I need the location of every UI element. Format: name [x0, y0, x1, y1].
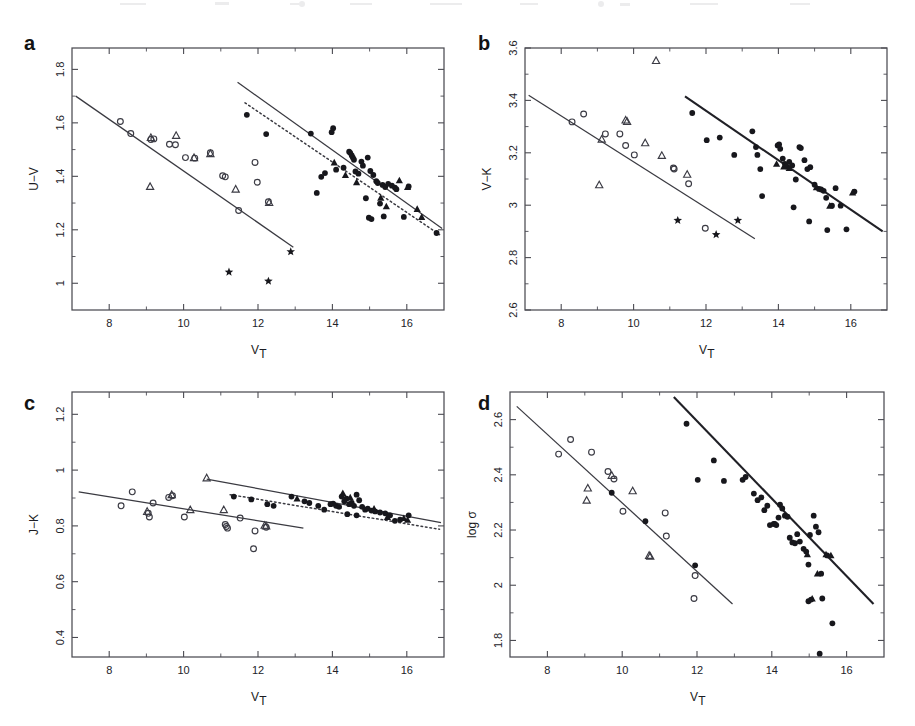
series-nearby-open-triangles — [147, 132, 273, 206]
plot-frame — [525, 48, 887, 310]
fit-line-nearby-fit-solid — [79, 492, 304, 528]
data-point — [353, 179, 360, 186]
data-point — [330, 125, 336, 131]
data-point — [321, 507, 327, 513]
data-point — [757, 166, 763, 172]
y-axis-label: V−K — [480, 167, 494, 190]
y-tick-label: 0.8 — [54, 518, 66, 533]
x-axis-label: VT — [251, 690, 267, 708]
data-point — [695, 477, 701, 483]
data-point — [251, 546, 257, 552]
data-point — [365, 155, 371, 161]
data-point — [833, 185, 839, 191]
y-tick-label: 2 — [492, 582, 504, 588]
data-point — [791, 204, 797, 210]
data-point — [755, 152, 761, 158]
x-axis-label: VT — [699, 343, 715, 361]
data-point — [203, 474, 210, 481]
data-point — [568, 437, 574, 443]
y-tick-label: 2.8 — [507, 250, 519, 265]
fit-line-nearby-fit-solid — [76, 96, 294, 247]
data-point — [605, 469, 611, 475]
data-point — [377, 510, 383, 516]
data-point — [807, 164, 813, 170]
data-point — [817, 651, 823, 657]
data-point — [816, 529, 822, 535]
data-point — [117, 119, 123, 125]
x-tick-label: 8 — [544, 664, 550, 676]
x-axis-label-base: V — [699, 343, 707, 357]
x-axis-label-subscript: T — [259, 347, 267, 361]
y-tick-label: 2.6 — [507, 302, 519, 317]
data-point — [631, 152, 637, 158]
data-point — [181, 514, 187, 520]
data-point — [308, 131, 314, 137]
series-nearby-open-circles — [117, 119, 271, 214]
data-point — [753, 144, 759, 150]
data-point — [780, 156, 786, 162]
data-point — [609, 490, 615, 496]
data-point — [838, 203, 844, 209]
series-nearby-filled-small — [609, 490, 698, 568]
data-point — [802, 157, 808, 163]
series-nearby-stars — [225, 247, 295, 285]
plot-panel-d-log-sigma: 8101214161.822.22.42.6log σVT — [452, 372, 906, 713]
x-tick-label: 14 — [326, 664, 338, 676]
data-point — [717, 135, 723, 141]
data-point — [602, 131, 608, 137]
data-point — [252, 528, 258, 534]
x-axis-label: VT — [690, 690, 706, 708]
data-point — [583, 497, 590, 504]
data-point — [118, 503, 124, 509]
data-point — [356, 171, 362, 177]
x-tick-label: 16 — [845, 317, 857, 329]
data-point — [829, 620, 835, 626]
data-point — [686, 181, 692, 187]
fit-line-nearby-fit-solid — [529, 95, 755, 239]
plot-panel-b-v-minus-k: 8101214162.62.833.23.43.6V−KVT — [467, 28, 909, 366]
x-tick-label: 14 — [772, 317, 784, 329]
plot-panel-a-u-minus-v: 81012141611.21.41.61.8U−VVT — [14, 28, 466, 366]
data-point — [434, 230, 440, 236]
data-point — [623, 143, 629, 149]
data-point — [596, 181, 603, 188]
y-tick-label: 2.4 — [492, 467, 504, 482]
data-point — [339, 489, 346, 496]
data-point — [392, 518, 398, 524]
data-point — [642, 518, 648, 524]
scan-artifact — [0, 0, 915, 22]
data-point — [584, 484, 591, 491]
x-tick-label: 14 — [326, 317, 338, 329]
x-tick-label: 16 — [840, 664, 852, 676]
data-point — [811, 513, 817, 519]
data-point — [248, 496, 254, 502]
series-nearby-open-circles — [118, 489, 269, 552]
data-point — [129, 489, 135, 495]
data-point — [813, 524, 819, 530]
y-axis-label: log σ — [465, 511, 479, 538]
data-point — [146, 514, 152, 520]
data-point — [370, 172, 376, 178]
data-point — [824, 227, 830, 233]
data-point — [264, 501, 270, 507]
data-point — [652, 57, 659, 64]
x-tick-label: 12 — [252, 317, 264, 329]
data-point — [704, 137, 710, 143]
data-point — [743, 474, 749, 480]
x-tick-label: 8 — [558, 317, 564, 329]
data-point — [806, 562, 812, 568]
x-axis-label-subscript: T — [707, 347, 715, 361]
data-point — [691, 596, 697, 602]
fit-line-cluster-fit-solid — [238, 82, 443, 228]
data-point — [393, 186, 399, 192]
y-axis-label: J−K — [27, 514, 41, 535]
x-tick-label: 12 — [252, 664, 264, 676]
data-point — [377, 201, 383, 207]
data-point — [794, 531, 800, 537]
data-point — [785, 514, 791, 520]
data-point — [662, 510, 668, 516]
data-point — [629, 487, 636, 494]
data-point — [318, 174, 324, 180]
series-cluster-filled-circles — [689, 110, 857, 233]
data-point — [289, 494, 295, 500]
